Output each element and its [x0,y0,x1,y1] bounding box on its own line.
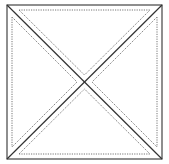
diagram-canvas [0,0,169,164]
dotted-triangle-bottom [19,89,150,154]
dotted-triangle-top [19,10,150,75]
dotted-triangle-right [92,17,157,147]
dotted-triangle-left [12,17,77,147]
